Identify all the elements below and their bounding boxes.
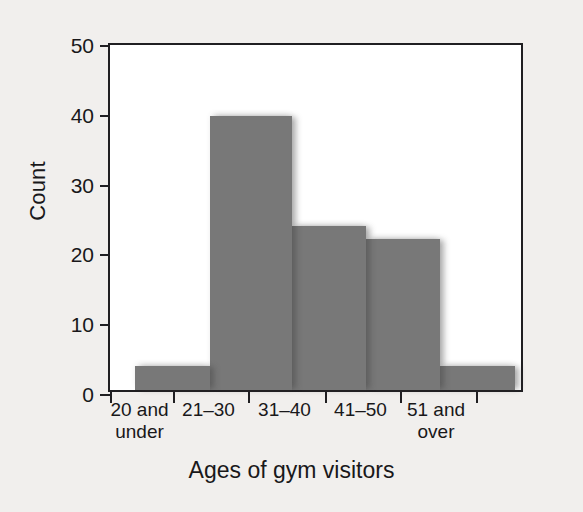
bar bbox=[210, 116, 292, 390]
y-axis-tick-label: 40 bbox=[71, 104, 94, 128]
y-axis-tick-label: 50 bbox=[71, 34, 94, 58]
x-axis-category-label-line: 51 and bbox=[376, 399, 496, 421]
bar bbox=[366, 239, 440, 390]
y-axis-tick: 40 bbox=[100, 115, 110, 117]
histogram-figure: Count 01020304050 Ages of gym visitors 2… bbox=[0, 0, 583, 512]
plot-area: 01020304050 bbox=[108, 43, 523, 392]
y-axis-tick-label: 20 bbox=[71, 243, 94, 267]
x-axis-title: Ages of gym visitors bbox=[0, 457, 583, 484]
bar bbox=[135, 366, 210, 390]
bar bbox=[292, 226, 366, 390]
x-axis-category-label-line: under bbox=[80, 421, 200, 443]
y-axis-title: Count bbox=[25, 136, 51, 246]
x-axis-category-label-line: over bbox=[376, 421, 496, 443]
y-axis-tick: 20 bbox=[100, 254, 110, 256]
bar bbox=[440, 366, 515, 390]
y-axis-tick: 10 bbox=[100, 324, 110, 326]
y-axis-tick-label: 30 bbox=[71, 174, 94, 198]
y-axis-tick: 0 bbox=[100, 394, 110, 396]
y-axis-tick: 50 bbox=[100, 45, 110, 47]
x-axis-category-label: 51 andover bbox=[376, 399, 496, 444]
y-axis-tick-label: 10 bbox=[71, 313, 94, 337]
y-axis-tick: 30 bbox=[100, 185, 110, 187]
bar-series bbox=[110, 45, 521, 390]
